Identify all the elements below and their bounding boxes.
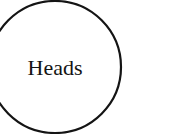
diagram-canvas: Heads — [0, 0, 181, 134]
node-label: Heads — [28, 55, 83, 80]
